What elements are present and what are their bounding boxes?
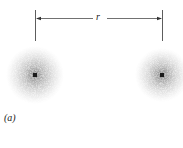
left-atom (6, 46, 64, 104)
right-nucleus (160, 73, 164, 77)
left-nucleus (33, 73, 37, 77)
atom-separation-diagram (0, 0, 183, 148)
panel-label: (a) (4, 112, 16, 123)
right-arrowhead-icon (157, 17, 162, 20)
right-atom (135, 48, 183, 102)
distance-label: r (96, 11, 100, 22)
left-arrowhead-icon (36, 17, 41, 20)
